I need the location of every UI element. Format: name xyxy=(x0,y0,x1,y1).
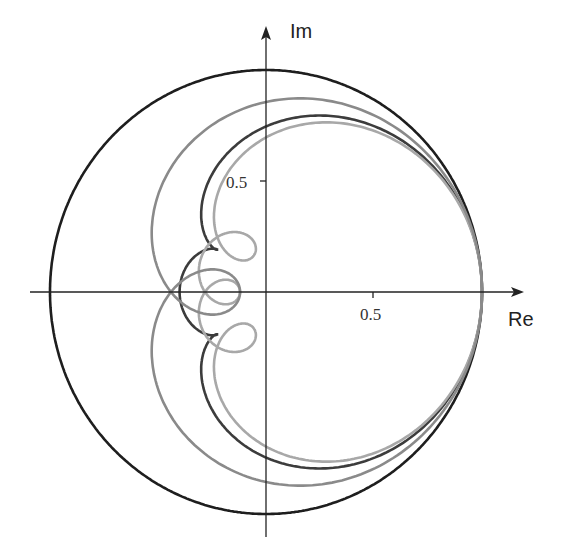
x-tick-label: 0.5 xyxy=(360,305,381,324)
x-axis-label: Re xyxy=(508,308,534,330)
y-tick-label: 0.5 xyxy=(226,173,247,192)
y-axis-label: Im xyxy=(290,20,312,42)
complex-plane-plot: 0.5 0.5 Re Im xyxy=(0,0,562,555)
